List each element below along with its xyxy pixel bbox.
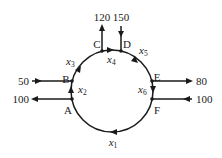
arrow-left-icon <box>110 129 117 135</box>
node-label-e: E <box>154 71 161 83</box>
edge-label-x3: x3 <box>65 55 75 69</box>
node-label-c: C <box>93 38 100 50</box>
node-label-a: A <box>64 104 72 116</box>
edge-label-x1: x1 <box>108 136 118 150</box>
arrow-right-icon <box>35 78 42 84</box>
node-dot-c <box>100 49 104 53</box>
node-label-d: D <box>123 38 131 50</box>
node-label-b: B <box>62 73 69 85</box>
arrow-left-icon <box>183 96 190 102</box>
arrow-up-icon <box>68 86 74 93</box>
arrow-left-icon <box>31 96 38 102</box>
node-dot-a <box>70 97 74 101</box>
edge-label-x6: x6 <box>137 83 147 97</box>
flow-value: 80 <box>196 75 208 87</box>
arrow-down-icon <box>118 31 124 37</box>
node-dot-f <box>150 97 154 101</box>
flow-f-in: 100 <box>152 93 213 105</box>
traffic-flow-diagram: 120 150 50 100 80 100 A B C D E F <box>0 0 222 158</box>
node-label-f: F <box>154 104 160 116</box>
flow-value: 100 <box>13 93 30 105</box>
flow-value: 100 <box>196 93 213 105</box>
edge-label-x2: x2 <box>77 83 87 97</box>
arrow-down-right-icon <box>131 56 138 63</box>
edge-label-x5: x5 <box>138 44 148 58</box>
flow-value: 120 <box>94 11 111 23</box>
flow-value: 50 <box>18 75 30 87</box>
arrow-down-icon <box>150 86 156 93</box>
arrow-right-icon <box>186 78 193 84</box>
flow-value: 150 <box>113 11 130 23</box>
edge-label-x4: x4 <box>106 53 116 67</box>
arrow-up-icon <box>99 24 105 31</box>
node-dot-b <box>70 79 74 83</box>
